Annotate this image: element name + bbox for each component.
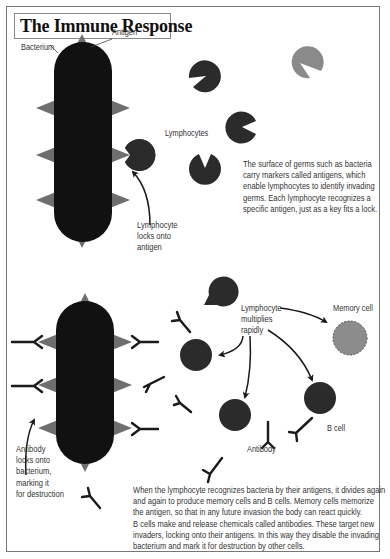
lymphocyte-icon bbox=[204, 277, 239, 307]
top-description: The surface of germs such as bacteria ca… bbox=[243, 159, 390, 215]
bacterium-label: Bacterium bbox=[21, 42, 54, 53]
daughter-cell-icon bbox=[219, 399, 251, 431]
top-bacterium-group bbox=[36, 34, 130, 248]
bacterium-icon bbox=[54, 42, 112, 242]
antigen-label: Antigen bbox=[112, 27, 137, 38]
memory-cell-label: Memory cell bbox=[333, 303, 373, 314]
memory-cell-icon bbox=[333, 321, 367, 355]
bacterium-icon bbox=[56, 301, 114, 464]
antibody-label: Antibody bbox=[247, 444, 276, 455]
antibody-lock-caption: Antibody locks onto bacterium, marking i… bbox=[16, 444, 85, 500]
b-cell-label: B cell bbox=[327, 423, 345, 434]
b-cell-icon bbox=[304, 382, 336, 414]
bottom-description: When the lymphocyte recognizes bacteria … bbox=[133, 485, 382, 552]
lymphocytes-label: Lymphocytes bbox=[165, 128, 208, 139]
multiplies-label: Lymphocyte multiplies rapidly bbox=[241, 303, 301, 337]
daughter-cell-icon bbox=[180, 339, 212, 371]
lymphocyte-lock-caption: Lymphocyte locks onto antigen bbox=[137, 220, 197, 254]
